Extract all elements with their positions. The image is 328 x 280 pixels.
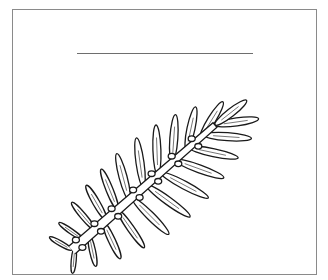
needle-midrib	[155, 191, 179, 209]
leaf-node	[98, 229, 105, 235]
leaf-node	[130, 187, 137, 193]
leaf-node	[79, 245, 86, 251]
leaf-node	[136, 195, 143, 201]
leaf-node	[175, 161, 182, 167]
leaf-node	[108, 206, 115, 212]
leaf-node	[188, 136, 195, 142]
leaf-node	[72, 237, 79, 243]
leaf-node	[168, 153, 175, 159]
leaf-node	[195, 144, 202, 150]
needle-midrib	[139, 205, 159, 225]
leaf-node	[155, 179, 162, 185]
evergreen-branch-drawing	[0, 0, 328, 280]
leaf-node	[91, 221, 98, 227]
leaf-node	[115, 214, 122, 220]
leaf-node	[148, 171, 155, 177]
